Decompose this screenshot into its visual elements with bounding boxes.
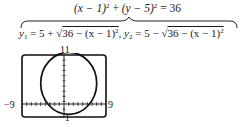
eq-term-b: (y − 5) <box>122 2 154 14</box>
equation-top: (x − 1)2 + (y − 5)2 = 36 <box>74 2 181 14</box>
graph-window <box>20 53 110 120</box>
xmin-label: −9 <box>4 99 15 110</box>
eq-term-a: (x − 1) <box>74 2 106 14</box>
equation-solutions: y1 = 5 + √36 − (x − 1)2, y2 = 5 − √36 − … <box>19 27 224 41</box>
